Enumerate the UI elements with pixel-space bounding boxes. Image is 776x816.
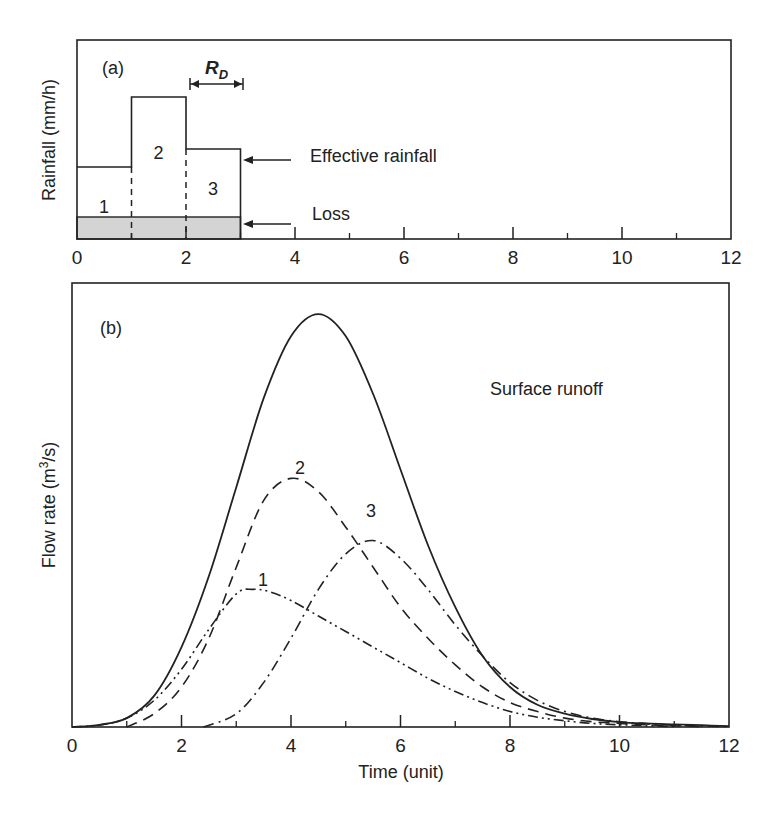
x-tick-label: 0 — [72, 247, 83, 268]
x-tick-label: 6 — [399, 247, 410, 268]
block-label-2: 2 — [153, 143, 163, 163]
arrow-left-icon — [191, 80, 199, 88]
loss-label: Loss — [312, 204, 350, 224]
panel-b-label: (b) — [100, 318, 122, 338]
figure: 1 2 3 (a) RD Effective rainfall Loss Rai… — [0, 0, 776, 816]
panel-a-frame — [77, 40, 731, 239]
x-tick-label: 2 — [176, 735, 187, 756]
arrow-left-icon — [243, 220, 253, 228]
duration-label: RD — [205, 57, 229, 82]
hydrograph-1 — [72, 589, 674, 727]
x-tick-label: 4 — [286, 735, 297, 756]
loss-band — [77, 217, 241, 239]
panel-b-x-tick-labels: 024681012 — [67, 735, 740, 756]
x-tick-label: 8 — [505, 735, 516, 756]
x-tick-label: 6 — [395, 735, 406, 756]
hydrograph-curves — [72, 314, 729, 727]
effective-rainfall-label: Effective rainfall — [310, 146, 437, 166]
panel-a-y-axis-title: Rainfall (mm/h) — [39, 79, 59, 201]
panel-b-frame — [72, 283, 729, 727]
x-tick-label: 2 — [181, 247, 192, 268]
effective-rainfall-pointer — [243, 156, 291, 164]
panel-a-label: (a) — [102, 58, 124, 78]
arrow-left-icon — [243, 156, 253, 164]
hydrograph-2 — [127, 478, 702, 727]
block-label-1: 1 — [99, 197, 109, 217]
panel-b-x-axis-title: Time (unit) — [358, 762, 443, 782]
loss-pointer — [243, 220, 291, 228]
hydrograph-surface-runoff-total- — [72, 314, 729, 727]
panel-b: (b) Surface runoff 1 2 3 Flow rate (m3/s… — [37, 283, 740, 782]
block-label-3: 3 — [208, 179, 218, 199]
x-tick-label: 4 — [290, 247, 301, 268]
x-tick-label: 10 — [611, 247, 632, 268]
x-tick-label: 12 — [718, 735, 739, 756]
curve-label-3: 3 — [366, 501, 376, 521]
x-tick-label: 12 — [720, 247, 741, 268]
panel-b-y-axis-title: Flow rate (m3/s) — [37, 442, 59, 569]
x-tick-label: 8 — [508, 247, 519, 268]
curve-label-1: 1 — [258, 570, 268, 590]
surface-runoff-label: Surface runoff — [490, 379, 604, 399]
hydrograph-3 — [203, 540, 729, 727]
duration-marker: RD — [190, 57, 243, 90]
panel-a-x-tick-labels: 024681012 — [72, 247, 742, 268]
panel-a: 1 2 3 (a) RD Effective rainfall Loss Rai… — [39, 40, 742, 268]
arrow-right-icon — [234, 80, 242, 88]
x-tick-label: 10 — [609, 735, 630, 756]
x-tick-label: 0 — [67, 735, 78, 756]
curve-label-2: 2 — [295, 458, 305, 478]
